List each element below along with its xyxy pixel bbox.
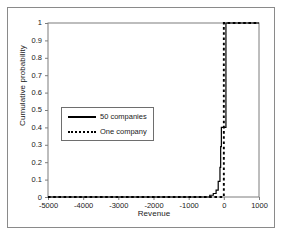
legend-line-sample-dashed <box>68 131 96 133</box>
figure-container: 1 0.9 0.8 0.7 0.6 0.5 0.4 0.3 0.2 0.1 0 … <box>7 7 275 228</box>
x-axis-title: Revenue <box>48 209 260 218</box>
legend: 50 companies One company <box>61 107 154 141</box>
legend-entry-50-companies: 50 companies <box>62 110 155 124</box>
y-tick-label: 0.1 <box>16 176 42 184</box>
legend-line-sample-solid <box>68 116 96 118</box>
y-tick-label: 0.2 <box>16 159 42 167</box>
legend-label: 50 companies <box>100 112 147 121</box>
y-axis-title: Cumulative probability <box>18 26 27 146</box>
legend-entry-one-company: One company <box>62 125 155 139</box>
legend-label: One company <box>100 127 147 136</box>
